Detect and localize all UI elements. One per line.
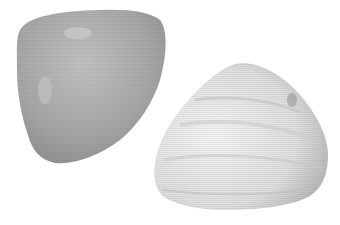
right-shell [154, 63, 328, 210]
shells-illustration [0, 0, 340, 225]
left-shell [17, 10, 166, 163]
